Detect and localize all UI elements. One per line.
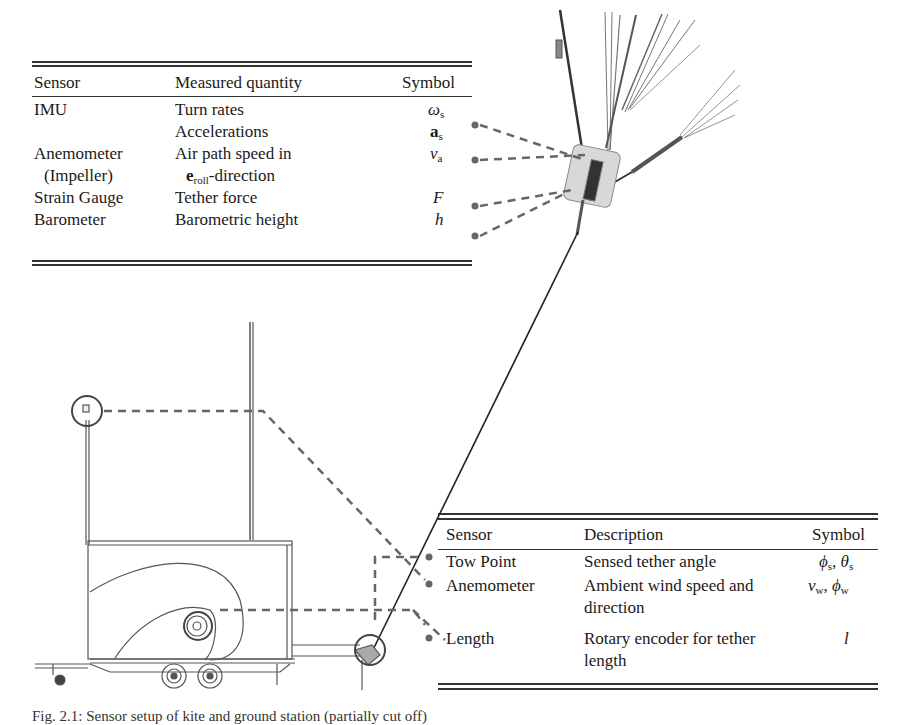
row-length-description: Rotary encoder for tether — [584, 628, 755, 650]
table-top-rule — [32, 61, 472, 63]
header-symbol: Symbol — [402, 72, 455, 94]
row-barometer-quantity: Barometric height — [175, 209, 298, 231]
table-bottom-rule — [32, 260, 472, 262]
figure-caption: Fig. 2.1: Sensor setup of kite and groun… — [32, 708, 427, 725]
header-measured-quantity: Measured quantity — [175, 72, 302, 94]
symbol-a-s: as — [430, 121, 443, 143]
row-anemometer-sensor: Anemometer — [446, 575, 535, 597]
header-sensor: Sensor — [446, 524, 492, 546]
row-towpoint-description: Sensed tether angle — [584, 551, 716, 573]
ground-sensor-table: Sensor Description Symbol Tow Point Sens… — [438, 513, 878, 691]
row-anemometer-description: Ambient wind speed and — [584, 575, 754, 597]
table-top-rule — [438, 513, 878, 515]
symbol-h: h — [435, 209, 444, 231]
symbol-l: l — [844, 628, 849, 650]
header-sensor: Sensor — [34, 72, 80, 94]
header-symbol: Symbol — [812, 524, 865, 546]
header-rule — [32, 96, 472, 97]
symbol-F: F — [433, 187, 443, 209]
kite-sensor-table: Sensor Measured quantity Symbol IMU Turn… — [32, 61, 472, 266]
row-anemometer-description-cont: direction — [584, 597, 644, 619]
header-rule — [438, 549, 878, 550]
symbol-phi-theta-s: ϕs, θs — [819, 551, 853, 573]
kite-illustration — [556, 10, 740, 235]
row-impeller-sensor: (Impeller) — [44, 165, 113, 187]
table-top-rule-2 — [438, 518, 878, 520]
row-towpoint-sensor: Tow Point — [446, 551, 516, 573]
row-anemometer-sensor: Anemometer — [34, 143, 123, 165]
row-acc-quantity: Accelerations — [175, 121, 268, 143]
row-impeller-quantity: eroll-direction — [186, 165, 275, 187]
symbol-omega-s: ωs — [428, 99, 444, 121]
row-imu-sensor: IMU — [34, 99, 67, 121]
table-bottom-rule-2 — [438, 688, 878, 690]
row-anemometer-quantity: Air path speed in — [175, 143, 292, 165]
row-strain-quantity: Tether force — [175, 187, 257, 209]
sensor-highlight-circles — [72, 396, 385, 665]
row-barometer-sensor: Barometer — [34, 209, 106, 231]
table-bottom-rule — [438, 683, 878, 685]
row-imu-quantity: Turn rates — [175, 99, 244, 121]
table-top-rule-2 — [32, 65, 472, 67]
symbol-v-a: va — [430, 143, 442, 165]
header-description: Description — [584, 524, 663, 546]
ground-station-trailer — [35, 322, 380, 690]
row-strain-sensor: Strain Gauge — [34, 187, 123, 209]
symbol-v-phi-w: vw, ϕw — [808, 575, 849, 597]
table-bottom-rule-2 — [32, 264, 472, 266]
row-length-description-cont: length — [584, 650, 627, 672]
row-length-sensor: Length — [446, 628, 494, 650]
